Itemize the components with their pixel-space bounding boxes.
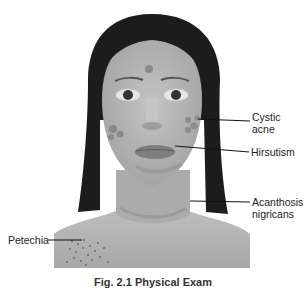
lips (135, 145, 175, 159)
label-petechia: Petechia (8, 234, 49, 246)
figure-caption: Fig. 2.1 Physical Exam (0, 276, 306, 288)
label-acanthosis-nigricans: Acanthosis nigricans (252, 196, 303, 220)
label-cystic-acne: Cystic acne (252, 111, 281, 135)
label-hirsutism: Hirsutism (251, 146, 295, 158)
